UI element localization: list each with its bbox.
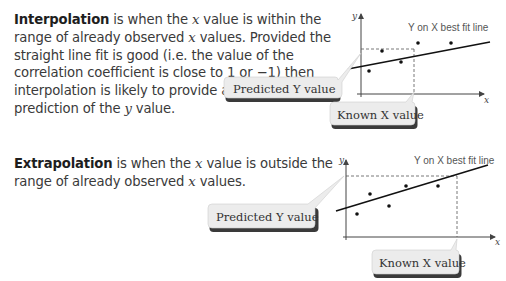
diagrams-canvas: y x Y on X best fit line Predicted Y val…: [0, 0, 506, 281]
known-x-callout: Known X value: [372, 239, 466, 278]
known-x-callout: Known X value: [330, 92, 424, 129]
predicted-y-label: Predicted Y value: [233, 82, 336, 96]
best-fit-line-label: Y on X best fit line: [408, 22, 489, 33]
predicted-y-callout: Predicted Y value: [224, 53, 361, 102]
interpolation-diagram: y x Y on X best fit line Predicted Y val…: [224, 11, 490, 129]
predicted-y-callout: Predicted Y value: [208, 176, 344, 232]
best-fit-line-label: Y on X best fit line: [414, 155, 495, 166]
y-axis-label: y: [338, 155, 345, 165]
data-points: [355, 184, 440, 216]
y-axis-label: y: [351, 11, 358, 21]
x-axis-label: x: [495, 237, 500, 247]
predicted-y-label: Predicted Y value: [216, 210, 319, 224]
best-fit-line: [336, 165, 488, 211]
extrapolation-diagram: y x Y on X best fit line Predicted Y val…: [208, 155, 500, 278]
known-x-label: Known X value: [379, 256, 466, 270]
best-fit-line: [348, 42, 490, 69]
x-axis-label: x: [484, 95, 489, 105]
known-x-label: Known X value: [337, 108, 424, 122]
